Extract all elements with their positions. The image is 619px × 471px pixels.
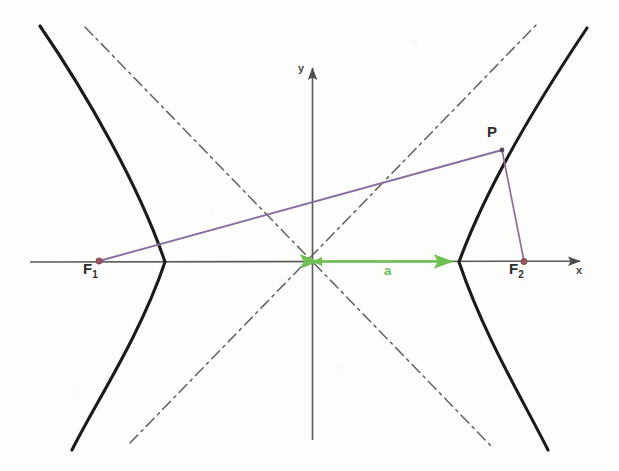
asymptote-positive-slope <box>130 25 536 443</box>
semi-axis-a-label: a <box>384 263 391 278</box>
semi-axis-a-left-arrowhead <box>312 257 322 266</box>
focal-ray-f1-p <box>99 150 502 261</box>
point-p-dot <box>500 148 505 153</box>
focus-f1-subscript: 1 <box>92 269 98 280</box>
focus-f1-label: F1 <box>83 260 98 280</box>
semi-axis-a-group <box>312 257 452 266</box>
focal-rays-group <box>99 150 524 261</box>
focal-ray-p-f2 <box>502 150 524 261</box>
x-axis-label: x <box>576 264 582 276</box>
focus-f2-label: F2 <box>509 260 524 280</box>
focus-f2-subscript: 2 <box>518 269 524 280</box>
hyperbola-branches <box>40 26 587 450</box>
hyperbola-right-branch <box>459 28 587 450</box>
y-axis-label: y <box>298 62 304 74</box>
point-p-label: P <box>487 123 497 140</box>
figure-canvas <box>0 0 619 471</box>
x-axis-line <box>30 261 580 262</box>
hyperbola-figure: F1 F2 P a y x <box>0 0 619 471</box>
asymptote-negative-slope <box>85 27 492 447</box>
